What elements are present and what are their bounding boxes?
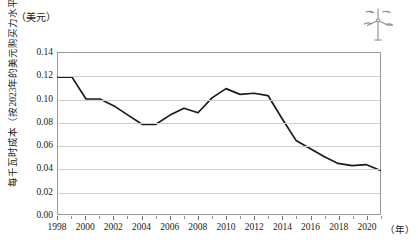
x-axis-minor-tick (296, 216, 297, 219)
y-axis-title: 每千瓦时成本（按2023年的美元购买力水平计算） (5, 0, 19, 187)
x-axis-major-tick (367, 216, 368, 220)
x-axis-tick-label: 2002 (104, 222, 123, 232)
x-axis-tick-label: 2010 (217, 222, 236, 232)
x-axis-major-tick (254, 216, 255, 220)
x-axis-tick-label: 2004 (132, 222, 151, 232)
x-axis-tick-label: 2014 (273, 222, 292, 232)
x-axis-minor-tick (325, 216, 326, 219)
x-axis-major-tick (142, 216, 143, 220)
x-axis-minor-tick (156, 216, 157, 219)
gridline (58, 76, 380, 77)
x-axis-minor-tick (212, 216, 213, 219)
x-axis-minor-tick (99, 216, 100, 219)
x-axis-minor-tick (268, 216, 269, 219)
x-axis-major-tick (339, 216, 340, 220)
gridline (58, 53, 380, 54)
x-axis-tick-label: 2006 (160, 222, 179, 232)
x-axis-tick-label: 1998 (48, 222, 67, 232)
y-axis-tick-label: 0.00 (23, 210, 53, 220)
x-axis-major-tick (226, 216, 227, 220)
y-axis-unit-label: （美元） (16, 9, 56, 24)
x-axis-major-tick (170, 216, 171, 220)
gridline (58, 123, 380, 124)
x-axis-major-tick (85, 216, 86, 220)
y-axis-tick-label: 0.10 (23, 94, 53, 104)
x-axis-major-tick (198, 216, 199, 220)
gridline (58, 100, 380, 101)
y-axis-tick-labels: 0.000.020.040.060.080.100.120.14 (20, 52, 53, 215)
wind-turbine-icon (358, 4, 398, 44)
x-axis-tick-label: 2020 (357, 222, 376, 232)
x-axis-tick-label: 2008 (188, 222, 207, 232)
x-axis-major-tick (57, 216, 58, 220)
x-axis-minor-tick (184, 216, 185, 219)
y-axis-tick-label: 0.12 (23, 70, 53, 80)
x-axis-tick-label: 2000 (76, 222, 95, 232)
y-axis-tick-label: 0.14 (23, 47, 53, 57)
x-axis-major-tick (311, 216, 312, 220)
x-axis-major-tick (282, 216, 283, 220)
y-axis-tick-label: 0.08 (23, 117, 53, 127)
x-axis-unit-label: （年） (385, 222, 415, 236)
x-axis-tick-label: 2016 (301, 222, 320, 232)
y-axis-tick-label: 0.02 (23, 187, 53, 197)
x-axis-minor-tick (127, 216, 128, 219)
x-axis-minor-tick (71, 216, 72, 219)
plot-area (57, 52, 381, 215)
gridline (58, 169, 380, 170)
y-axis-tick-label: 0.06 (23, 140, 53, 150)
chart-figure: （美元） 每千瓦时成本（按2023年的美元购买力水平计算） 0.000.020.… (0, 0, 418, 243)
x-axis-tick-labels: 1998200020022004200620082010201220142016… (57, 216, 381, 238)
y-axis-tick-label: 0.04 (23, 163, 53, 173)
x-axis-minor-tick (381, 216, 382, 219)
x-axis-minor-tick (240, 216, 241, 219)
gridline (58, 193, 380, 194)
gridline (58, 146, 380, 147)
x-axis-minor-tick (353, 216, 354, 219)
y-axis-title-wrapper: 每千瓦时成本（按2023年的美元购买力水平计算） (5, 0, 19, 163)
x-axis-major-tick (113, 216, 114, 220)
x-axis-tick-label: 2012 (245, 222, 264, 232)
x-axis-tick-label: 2018 (329, 222, 348, 232)
